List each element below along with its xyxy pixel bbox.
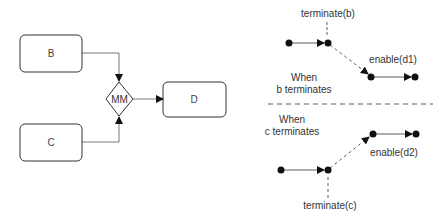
state-dot bbox=[368, 74, 375, 81]
state-dot bbox=[325, 167, 332, 174]
box-d-label: D bbox=[190, 94, 197, 105]
bottom-caption-line1: When bbox=[279, 114, 305, 125]
bottom-caption-line2: c terminates bbox=[265, 126, 319, 137]
state-dot bbox=[412, 74, 419, 81]
box-b-label: B bbox=[48, 48, 55, 59]
box-b: B bbox=[20, 35, 82, 72]
terminate-c-label: terminate(c) bbox=[303, 200, 356, 211]
connector-b-mm bbox=[82, 53, 119, 81]
state-dot bbox=[325, 40, 332, 47]
gateway-label: MM bbox=[111, 94, 128, 105]
enable-d2-label: enable(d2) bbox=[370, 147, 418, 158]
box-c-label: C bbox=[47, 137, 54, 148]
state-dot bbox=[413, 131, 420, 138]
top-caption-line1: When bbox=[291, 72, 317, 83]
box-d: D bbox=[163, 82, 226, 117]
bottom-scenario: When c terminates enable(d2) terminate(c… bbox=[265, 114, 420, 211]
connector-c-mm bbox=[82, 117, 119, 142]
terminate-b-label: terminate(b) bbox=[301, 8, 355, 19]
gateway-mm: MM bbox=[106, 82, 133, 116]
box-c: C bbox=[20, 124, 82, 161]
state-dot bbox=[278, 167, 285, 174]
diagram-canvas: B C D MM terminate(b) enable(d1) When b … bbox=[0, 0, 447, 219]
state-dot bbox=[286, 40, 293, 47]
enable-d1-label: enable(d1) bbox=[369, 54, 417, 65]
state-dot bbox=[370, 131, 377, 138]
top-caption-line2: b terminates bbox=[276, 84, 331, 95]
top-scenario: terminate(b) enable(d1) When b terminate… bbox=[276, 8, 418, 95]
